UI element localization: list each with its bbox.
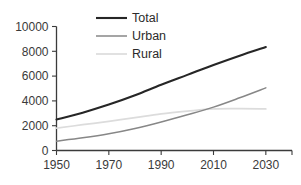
y-tick-label: 2000 (22, 119, 49, 133)
y-tick-label: 4000 (22, 94, 49, 108)
y-tick-label: 0 (42, 144, 49, 158)
chart-canvas: 0200040006000800010000195019701990201020… (0, 0, 301, 185)
x-tick-label: 2030 (252, 158, 279, 172)
legend-label-total: Total (132, 11, 158, 25)
x-tick-label: 1950 (43, 158, 70, 172)
legend-label-rural: Rural (132, 47, 162, 61)
x-tick-label: 2010 (200, 158, 227, 172)
y-tick-label: 8000 (22, 45, 49, 59)
population-line-chart: 0200040006000800010000195019701990201020… (0, 0, 301, 185)
x-tick-label: 1970 (95, 158, 122, 172)
legend-label-urban: Urban (132, 29, 166, 43)
y-tick-label: 6000 (22, 69, 49, 83)
x-tick-label: 1990 (148, 158, 175, 172)
y-tick-label: 10000 (15, 20, 49, 34)
